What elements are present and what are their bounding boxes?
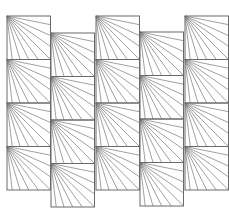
fan-line	[140, 119, 184, 139]
fan-line	[96, 60, 140, 80]
column-5	[185, 16, 229, 190]
hatched-cell	[140, 163, 184, 207]
fan-line	[96, 103, 140, 123]
hatched-cell	[185, 103, 229, 147]
hatched-cell	[96, 60, 140, 104]
hatched-cell	[7, 103, 51, 147]
hatched-cell	[51, 120, 95, 164]
fan-line	[185, 16, 229, 36]
fan-line	[51, 120, 95, 140]
fan-line	[96, 16, 140, 36]
hatched-cell	[51, 77, 95, 121]
column-4	[140, 32, 184, 206]
hatched-cell	[51, 33, 95, 77]
hatched-cell	[96, 16, 140, 60]
hatched-cell	[7, 16, 51, 60]
fan-line	[7, 16, 51, 36]
fan-line	[185, 103, 229, 123]
hatched-cell	[140, 76, 184, 120]
hatched-cell	[140, 119, 184, 163]
fan-line	[96, 147, 140, 167]
hatched-cell	[7, 147, 51, 191]
fan-line	[140, 76, 184, 96]
fan-line	[140, 32, 184, 52]
hatched-cell	[185, 16, 229, 60]
fan-line	[51, 77, 95, 97]
fan-line	[185, 60, 229, 80]
fan-line	[140, 163, 184, 183]
fan-line	[185, 147, 229, 167]
fan-tiling-diagram	[0, 0, 229, 217]
fan-line	[7, 147, 51, 167]
hatched-cell	[51, 164, 95, 208]
fan-line	[7, 60, 51, 80]
hatched-cell	[185, 147, 229, 191]
hatched-cell	[185, 60, 229, 104]
column-1	[7, 16, 51, 190]
fan-line	[51, 33, 95, 53]
hatched-cell	[140, 32, 184, 76]
fan-line	[51, 164, 95, 184]
column-3	[96, 16, 140, 190]
hatched-cell	[96, 103, 140, 147]
column-2	[51, 33, 95, 207]
fan-line	[7, 103, 51, 123]
hatched-cell	[96, 147, 140, 191]
hatched-cell	[7, 60, 51, 104]
